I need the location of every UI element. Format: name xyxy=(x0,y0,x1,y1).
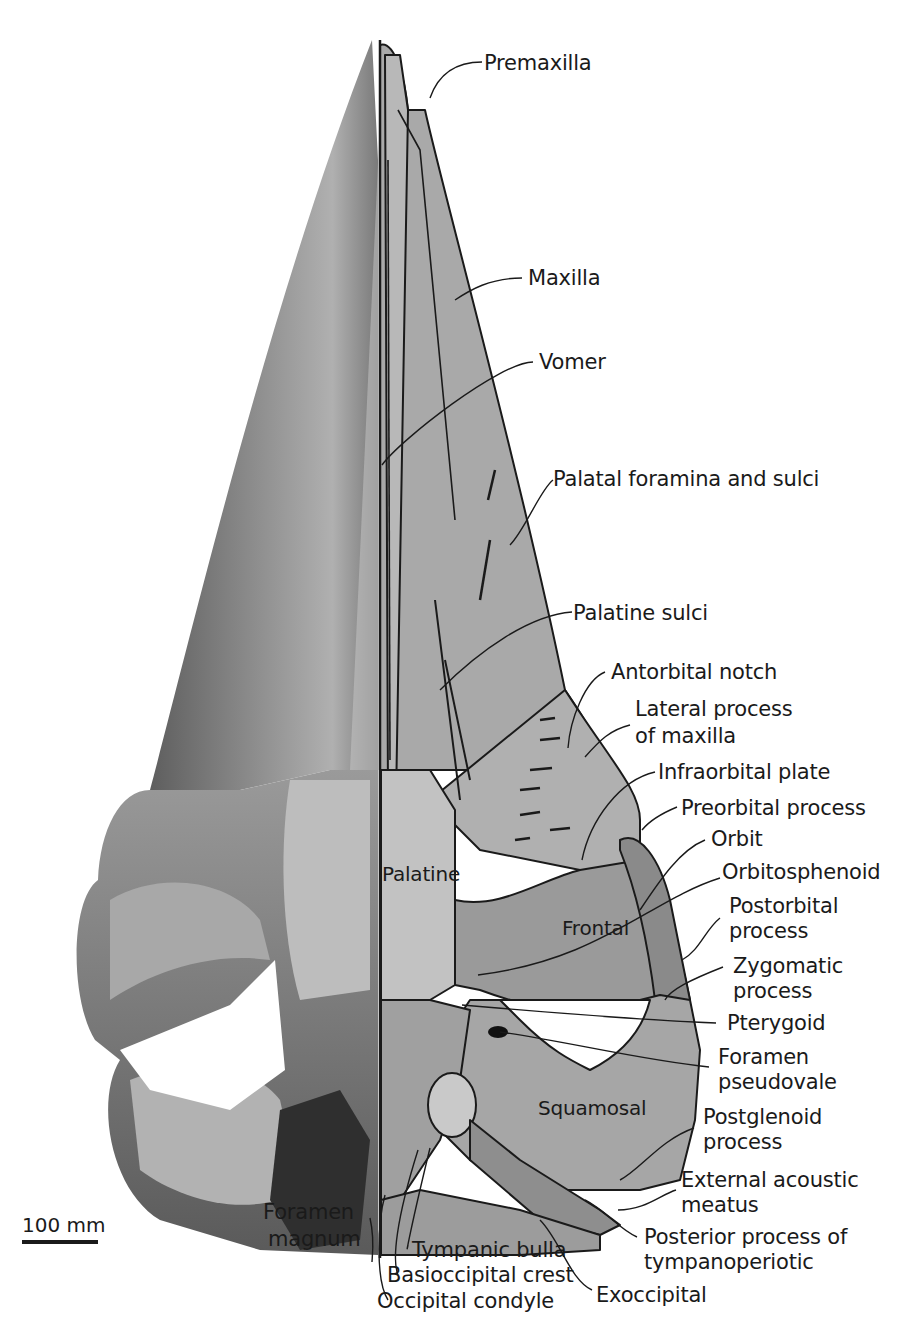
label-pterygoid: Pterygoid xyxy=(727,1010,825,1036)
label-zygomatic-process: Zygomatic xyxy=(733,953,843,979)
label-tympanic-bulla: Tympanic bulla xyxy=(412,1237,566,1263)
label-vomer: Vomer xyxy=(539,349,606,375)
label-frontal: Frontal xyxy=(562,915,629,941)
label-posterior-process-line2: tympanoperiotic xyxy=(644,1249,814,1275)
label-postorbital-process: Postorbital xyxy=(729,893,838,919)
label-orbit: Orbit xyxy=(711,826,763,852)
label-palatine-sulci: Palatine sulci xyxy=(573,600,708,626)
label-palatine: Palatine xyxy=(382,861,460,887)
label-basioccipital-crest: Basioccipital crest xyxy=(387,1262,574,1288)
scale-bar xyxy=(22,1240,98,1244)
label-postglenoid-process: Postglenoid xyxy=(703,1104,822,1130)
label-antorbital-notch: Antorbital notch xyxy=(611,659,777,685)
label-lateral-process: Lateral process xyxy=(635,696,792,722)
label-foramen-pseudovale-line2: pseudovale xyxy=(718,1069,837,1095)
label-squamosal: Squamosal xyxy=(538,1095,646,1121)
label-lateral-process-line2: of maxilla xyxy=(635,723,736,749)
label-maxilla: Maxilla xyxy=(528,265,600,291)
label-postorbital-process-line2: process xyxy=(729,918,808,944)
label-foramen-magnum-line2: magnum xyxy=(268,1226,361,1252)
label-orbitosphenoid: Orbitosphenoid xyxy=(722,859,880,885)
label-preorbital-process: Preorbital process xyxy=(681,795,866,821)
label-posterior-process: Posterior process of xyxy=(644,1224,847,1250)
label-exoccipital: Exoccipital xyxy=(596,1282,707,1308)
drawing-right-half xyxy=(380,40,700,1258)
skull-diagram: Palatine Frontal Squamosal Premaxilla Ma… xyxy=(0,0,908,1336)
label-zygomatic-process-line2: process xyxy=(733,978,812,1004)
label-occipital-condyle: Occipital condyle xyxy=(377,1288,554,1314)
label-palatal-foramina: Palatal foramina and sulci xyxy=(553,466,819,492)
scale-bar-label: 100 mm xyxy=(22,1213,106,1237)
label-postglenoid-process-line2: process xyxy=(703,1129,782,1155)
label-foramen-pseudovale: Foramen xyxy=(718,1044,809,1070)
label-external-acoustic-meatus: External acoustic xyxy=(681,1167,859,1193)
label-external-acoustic-meatus-line2: meatus xyxy=(681,1192,759,1218)
photo-left-half xyxy=(77,40,380,1255)
label-infraorbital-plate: Infraorbital plate xyxy=(658,759,830,785)
label-foramen-magnum: Foramen xyxy=(263,1199,354,1225)
label-premaxilla: Premaxilla xyxy=(484,50,592,76)
